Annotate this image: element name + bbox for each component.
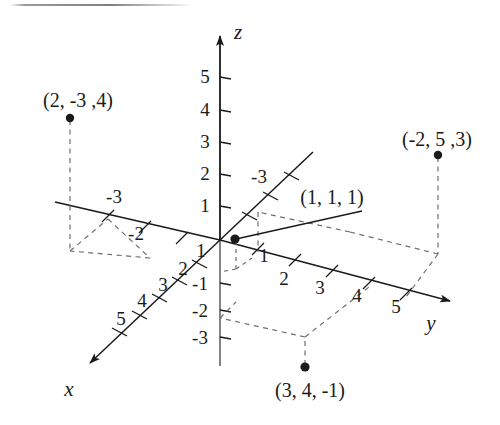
tick-label-z-neg1: -1	[192, 274, 208, 293]
tick-label-z-4: 4	[200, 100, 210, 119]
tick-label-y-neg3: -3	[106, 187, 122, 206]
diagram-canvas	[0, 0, 500, 425]
tick-label-x-4: 4	[137, 291, 147, 310]
leader-line-point-1-1-1	[236, 211, 362, 239]
tick-label-x-2: 2	[178, 259, 188, 278]
dot-point-2-neg3-4[interactable]	[66, 114, 74, 122]
point-label-neg2-5-3: (-2, 5 ,3)	[402, 129, 472, 149]
projection-guides-point-3-4-neg1	[220, 287, 369, 365]
axis-label-y: y	[426, 313, 435, 334]
tick-label-x-neg3: -3	[251, 167, 267, 186]
tick-label-y-4: 4	[352, 286, 362, 305]
tick-label-y-5: 5	[391, 297, 401, 316]
tick-label-y-3: 3	[315, 278, 325, 297]
axis-y-arrow	[220, 240, 450, 301]
tick-label-x-3: 3	[158, 275, 168, 294]
tick-label-y-2: 2	[279, 269, 289, 288]
point-label-2-neg3-4: (2, -3 ,4)	[43, 90, 113, 110]
tick-label-x-5: 5	[116, 309, 126, 328]
axis-y	[55, 202, 450, 301]
tick-label-z-2: 2	[200, 164, 210, 183]
dot-point-neg2-5-3[interactable]	[434, 151, 442, 159]
dot-point-1-1-1[interactable]	[230, 234, 239, 243]
coordinate-diagram-figure: z y x 5 4 3 2 1 -1 -2 -3 1 2 3 4 5 -3 -2…	[0, 0, 500, 425]
projection-guides-point-1-1-1	[220, 241, 252, 272]
tick-label-z-1: 1	[200, 196, 210, 215]
axis-label-x: x	[64, 379, 73, 400]
tick-label-z-neg3: -3	[192, 328, 208, 347]
point-label-3-4-neg1: (3, 4, -1)	[275, 380, 345, 400]
tick-label-y-1: 1	[259, 246, 269, 265]
tick-label-x-1: 1	[196, 241, 206, 260]
tick-label-z-3: 3	[200, 132, 210, 151]
tick-label-z-neg2: -2	[192, 301, 208, 320]
point-label-1-1-1: (1, 1, 1)	[300, 187, 363, 207]
tick-label-z-5: 5	[200, 67, 210, 86]
tick-label-y-neg2: -2	[128, 224, 144, 243]
axis-label-z: z	[234, 22, 242, 43]
dot-point-3-4-neg1[interactable]	[300, 362, 309, 371]
